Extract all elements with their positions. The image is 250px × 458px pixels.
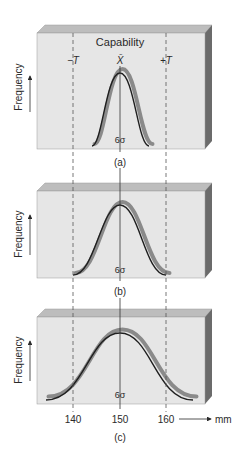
lower-tolerance-label: −T [67,55,80,66]
panel-a: Capability −T X̄ +T 6σ Frequency [13,25,212,149]
caption-a: (a) [114,157,126,168]
tick-label-160: 160 [158,414,175,425]
box-top-face [37,25,212,33]
tick-label-140: 140 [65,414,82,425]
y-axis-label: Frequency [13,336,24,383]
caption-c: (c) [114,432,126,443]
box-front-face [37,33,205,149]
panel-c: 6σ Frequency [13,309,212,404]
box-side-face [205,25,212,149]
y-axis-label: Frequency [13,63,24,110]
tick-label-150: 150 [112,414,129,425]
unit-label: mm [215,414,232,425]
box-top-face [37,309,212,317]
box-side-face [205,183,212,278]
caption-b: (b) [114,286,126,297]
y-axis-label: Frequency [13,210,24,257]
upper-tolerance-label: +T [160,55,173,66]
mean-label: X̄ [116,54,124,66]
box-top-face [37,183,212,191]
process-capability-diagram: Capability −T X̄ +T 6σ Frequency (a) 6σ … [0,0,250,458]
capability-label: Capability [96,36,145,48]
box-side-face [205,309,212,404]
panel-b: 6σ Frequency [13,183,212,278]
